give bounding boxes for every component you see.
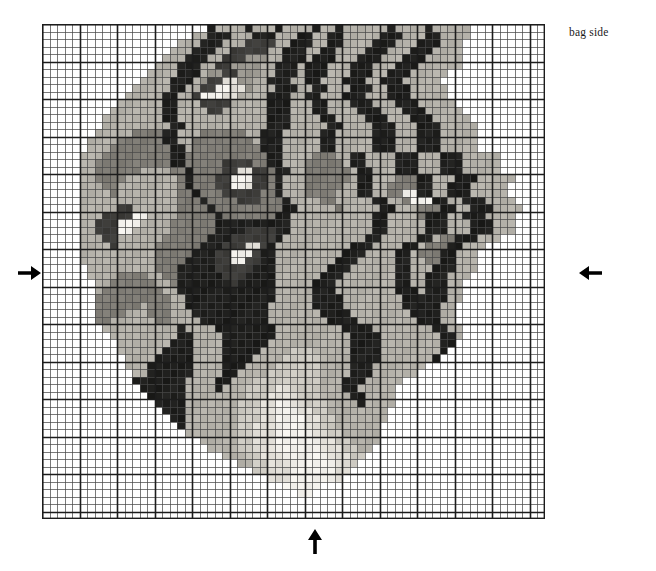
pattern-canvas [42, 24, 545, 519]
center-marker-left-arrow-icon [18, 265, 42, 281]
needlepoint-chart-grid[interactable] [42, 24, 545, 519]
center-marker-bottom-arrow-icon [307, 528, 323, 554]
center-marker-right-arrow-icon [578, 265, 602, 281]
chart-page: bag side [0, 0, 656, 571]
bag-side-label: bag side [569, 26, 609, 38]
